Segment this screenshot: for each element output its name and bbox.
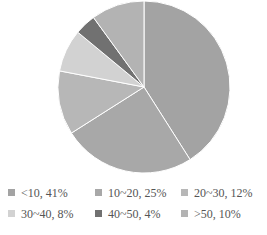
legend-swatch <box>95 210 102 217</box>
legend-label: 10~20, 25% <box>108 186 167 200</box>
legend-item: 30~40, 8% <box>8 207 74 221</box>
legend-swatch <box>95 189 102 196</box>
legend-label: 40~50, 4% <box>108 207 161 221</box>
legend-label: >50, 10% <box>194 207 241 221</box>
legend-swatch <box>8 210 15 217</box>
legend-swatch <box>181 189 188 196</box>
legend-item: 10~20, 25% <box>95 186 167 200</box>
pie-chart <box>0 0 267 180</box>
legend-item: 20~30, 12% <box>181 186 253 200</box>
legend-swatch <box>8 189 15 196</box>
legend-label: 30~40, 8% <box>21 207 74 221</box>
legend-item: 40~50, 4% <box>95 207 161 221</box>
legend-label: <10, 41% <box>21 186 68 200</box>
legend-item: >50, 10% <box>181 207 241 221</box>
legend-label: 20~30, 12% <box>194 186 253 200</box>
legend-item: <10, 41% <box>8 186 68 200</box>
legend-swatch <box>181 210 188 217</box>
